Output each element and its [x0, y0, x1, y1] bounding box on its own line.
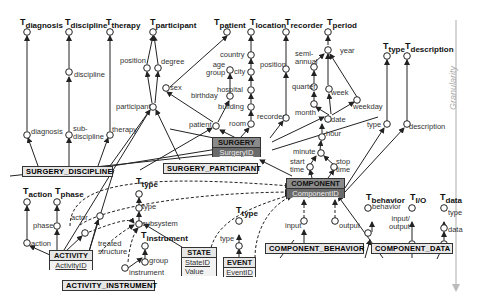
- label-behavior: behavior: [372, 203, 401, 211]
- t-diagnosis-node: Tdiagnosis: [20, 17, 63, 28]
- label-description: description: [409, 123, 445, 131]
- granularity-axis-label: Granularity: [448, 66, 458, 110]
- label-subdiscipline: sub- discipline: [73, 125, 104, 141]
- label-diagnosis: diagnosis: [31, 128, 63, 136]
- label-discipline: discipline: [74, 71, 105, 79]
- t-participant-node: Tparticipant: [150, 17, 196, 28]
- label-patient: patient: [189, 121, 212, 129]
- t-recorder-node: Trecorder: [285, 17, 323, 28]
- label-country: country: [220, 51, 245, 59]
- entity-surgery: SURGERY SurgeryID: [212, 137, 261, 157]
- label-type-activity: type: [142, 203, 156, 211]
- label-group: group: [149, 257, 168, 265]
- entity-activity-key: ActivityID: [50, 261, 92, 270]
- entity-activity-instrument: ACTIVITY_INSTRUMENT: [62, 280, 155, 291]
- entity-activity-name: ACTIVITY: [50, 251, 92, 261]
- t-therapy-node: Ttherapy: [106, 17, 140, 28]
- label-input-output: input/ output: [389, 215, 410, 231]
- label-phase: phase: [33, 222, 53, 230]
- t-location-node: Tlocation: [250, 17, 286, 28]
- label-therapy: therapy: [112, 126, 137, 134]
- label-instrument: instrument: [129, 269, 164, 277]
- label-data: data: [448, 226, 463, 234]
- label-minute: minute: [293, 148, 316, 156]
- label-type-data: type: [448, 209, 462, 217]
- label-type: type: [367, 121, 381, 129]
- label-treated-structure: treated structure: [98, 240, 127, 256]
- label-semi-annual: semi- annual: [295, 50, 318, 66]
- entity-component: COMPONENT ComponentID: [286, 178, 345, 198]
- label-weekday: weekday: [353, 103, 383, 111]
- entity-event: EVENT EventID: [223, 257, 256, 277]
- entity-surgery-key: SurgeryID: [213, 148, 260, 157]
- entity-event-name: EVENT: [224, 258, 255, 268]
- entity-state-name: STATE: [182, 248, 216, 258]
- entity-state: STATE StateID Value: [181, 247, 217, 276]
- entity-component-key: ComponentID: [287, 189, 344, 198]
- t-period-node: Tperiod: [327, 17, 357, 28]
- label-subsystem: subsystem: [142, 220, 178, 228]
- t-discipline-node: Tdiscipline: [65, 17, 107, 28]
- dimension-hierarchy-diagram: Tdiagnosis Tdiscipline Ttherapy Tpartici…: [0, 0, 479, 302]
- t-action-node: Taction: [23, 186, 52, 197]
- label-sex: sex: [170, 84, 182, 92]
- label-actor: actor: [71, 214, 88, 222]
- entity-component-data: COMPONENT_DATA: [371, 243, 453, 254]
- t-type-node-event: Ttype: [236, 205, 258, 216]
- label-building: building: [218, 103, 244, 111]
- t-instrument-node: Tinstrument: [141, 230, 188, 241]
- label-date: date: [331, 116, 346, 124]
- t-io-node: TI/O: [410, 192, 426, 203]
- label-hour: hour: [326, 130, 341, 138]
- t-type-node: Ttype: [383, 41, 405, 52]
- label-start-time: start time: [290, 158, 305, 174]
- label-city: city: [234, 68, 245, 76]
- t-type-node-activity: Ttype: [136, 176, 158, 187]
- label-type-event: type: [220, 235, 234, 243]
- label-birthday: birthday: [191, 92, 218, 100]
- label-room: room: [229, 120, 246, 128]
- label-position-recorder: position: [260, 61, 286, 69]
- label-hospital: hospital: [217, 86, 243, 94]
- label-month: month: [295, 109, 316, 117]
- entity-state-value: Value: [182, 267, 216, 276]
- entity-event-key: EventID: [224, 268, 255, 277]
- label-week: week: [331, 89, 349, 97]
- t-description-node: Tdescription: [405, 41, 454, 52]
- label-action: action: [31, 240, 51, 248]
- label-input: input: [285, 222, 301, 230]
- entity-activity: ACTIVITY ActivityID: [49, 250, 93, 270]
- label-year: year: [340, 47, 355, 55]
- t-patient-node: Tpatient: [214, 17, 246, 28]
- entity-component-name: COMPONENT: [287, 179, 344, 189]
- label-stop-time: stop time: [336, 158, 350, 174]
- label-quarter: quarter: [292, 83, 316, 91]
- entity-state-key: StateID: [182, 258, 216, 267]
- label-degree: degree: [161, 58, 184, 66]
- t-data-node: Tdata: [440, 192, 462, 203]
- label-participant: participant: [116, 103, 151, 111]
- entity-surgery-discipline: SURGERY_DISCIPLINE: [22, 166, 113, 177]
- label-recorder: recorder: [257, 113, 285, 121]
- entity-surgery-name: SURGERY: [213, 138, 260, 148]
- label-output: output: [339, 222, 360, 230]
- label-position: position: [120, 57, 146, 65]
- entity-component-behavior: COMPONENT_BEHAVIOR: [265, 243, 364, 254]
- t-phase-node: Tphase: [55, 186, 84, 197]
- entity-surgery-participant: SURGERY_PARTICIPANT: [163, 163, 258, 174]
- label-age-group: age group: [206, 61, 225, 77]
